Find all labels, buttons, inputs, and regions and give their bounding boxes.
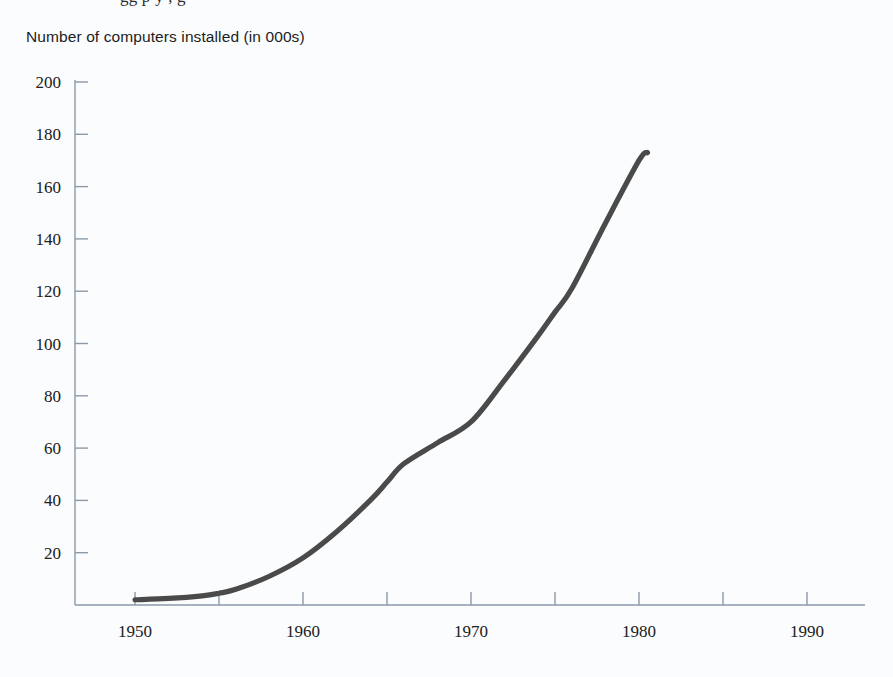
x-axis-tick-label: 1990 [790, 622, 824, 641]
y-axis-tick-label: 120 [36, 282, 62, 301]
y-axis-tick-label: 60 [44, 439, 61, 458]
line-chart: 2040608010012014016018020019501960197019… [0, 0, 893, 677]
x-axis-tick-label: 1960 [286, 622, 320, 641]
y-axis-tick-label: 200 [36, 73, 62, 92]
y-axis-tick-label: 140 [36, 230, 62, 249]
x-axis-tick-label: 1950 [118, 622, 152, 641]
data-series-line [135, 153, 647, 600]
chart-page: gg p y , g Number of computers installed… [0, 0, 893, 677]
y-axis-tick-label: 100 [36, 335, 62, 354]
x-axis-tick-label: 1970 [454, 622, 488, 641]
x-axis-tick-label: 1980 [622, 622, 656, 641]
y-axis-tick-label: 180 [36, 125, 62, 144]
y-axis-tick-label: 80 [44, 387, 61, 406]
y-axis-tick-label: 40 [44, 491, 61, 510]
y-axis-tick-label: 160 [36, 178, 62, 197]
y-axis-tick-label: 20 [44, 544, 61, 563]
